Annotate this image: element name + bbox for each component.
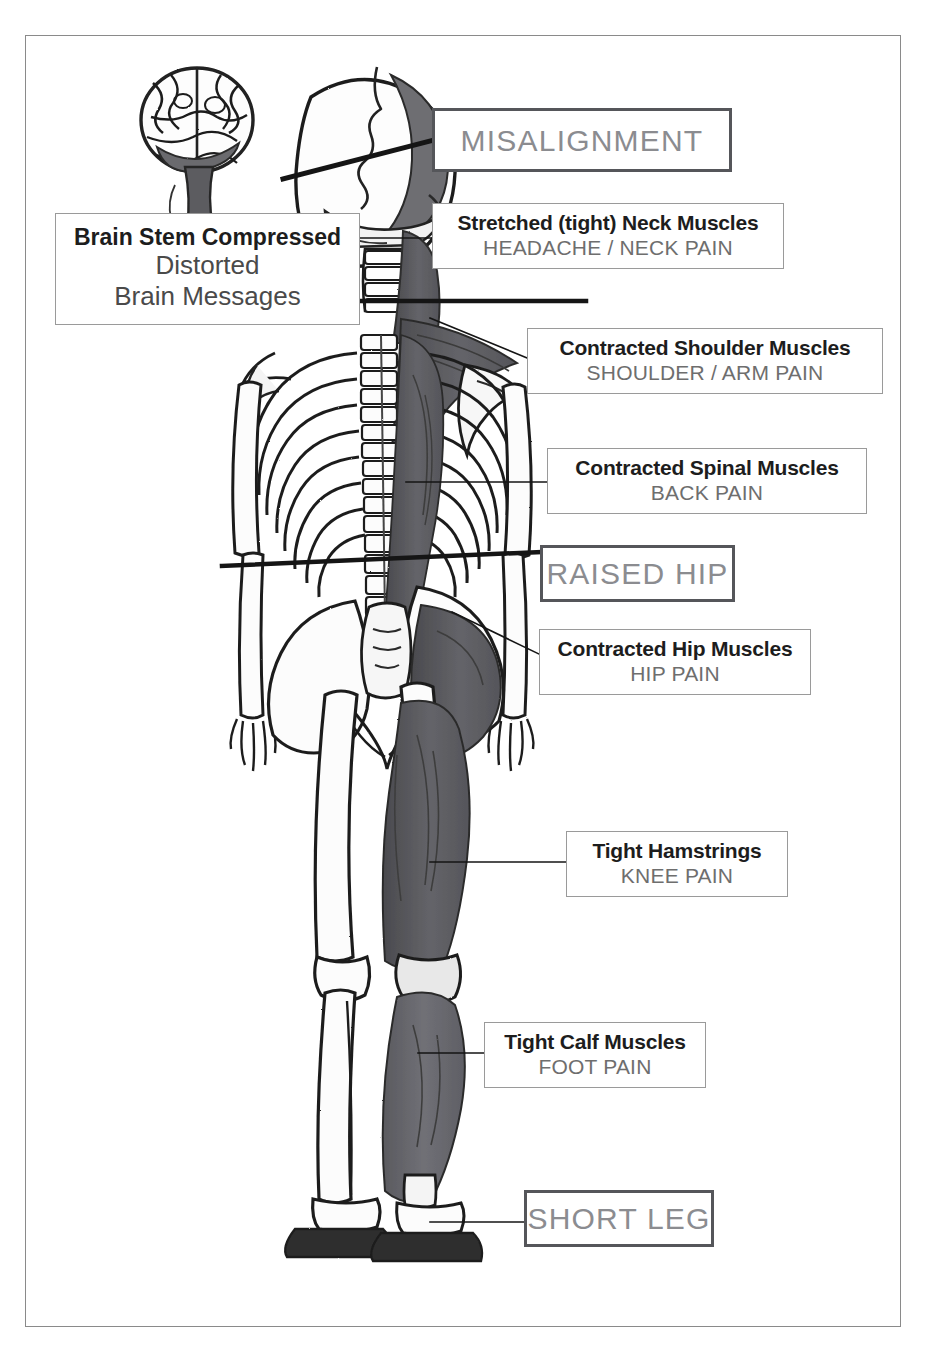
brain-illustration: [141, 68, 253, 225]
finding-box-misalignment[interactable]: MISALIGNMENT: [432, 108, 732, 172]
label-symptom-hip: HIP PAIN: [630, 662, 720, 686]
finding-label-short-leg: SHORT LEG: [527, 1202, 710, 1235]
label-title-calf: Tight Calf Muscles: [504, 1030, 686, 1054]
label-box-calf[interactable]: Tight Calf Muscles FOOT PAIN: [484, 1022, 706, 1088]
diagram-page: MISALIGNMENT Brain Stem Compressed Disto…: [0, 0, 928, 1351]
label-box-hamstring[interactable]: Tight Hamstrings KNEE PAIN: [566, 831, 788, 897]
label-symptom-hamstring: KNEE PAIN: [621, 864, 733, 888]
label-symptom-neck: HEADACHE / NECK PAIN: [483, 236, 733, 260]
left-leg: [285, 691, 392, 1257]
pelvis-illustration: [269, 587, 504, 769]
brain-stem-line-1: Brain Stem Compressed: [74, 224, 341, 250]
label-title-spinal: Contracted Spinal Muscles: [575, 456, 838, 480]
finding-label-raised-hip: RAISED HIP: [546, 557, 728, 590]
label-title-hip: Contracted Hip Muscles: [558, 637, 793, 661]
right-leg: [371, 683, 482, 1261]
finding-box-raised-hip[interactable]: RAISED HIP: [540, 545, 735, 602]
label-box-neck[interactable]: Stretched (tight) Neck Muscles HEADACHE …: [432, 203, 784, 269]
label-title-neck: Stretched (tight) Neck Muscles: [458, 211, 759, 235]
label-title-hamstring: Tight Hamstrings: [592, 839, 761, 863]
label-box-brain-stem[interactable]: Brain Stem Compressed Distorted Brain Me…: [55, 213, 360, 325]
finding-box-short-leg[interactable]: SHORT LEG: [524, 1190, 714, 1247]
finding-label-misalignment: MISALIGNMENT: [461, 124, 704, 157]
label-box-shoulder[interactable]: Contracted Shoulder Muscles SHOULDER / A…: [527, 328, 883, 394]
brain-stem-line-2: Distorted: [155, 250, 259, 281]
label-box-hip[interactable]: Contracted Hip Muscles HIP PAIN: [539, 629, 811, 695]
label-box-spinal[interactable]: Contracted Spinal Muscles BACK PAIN: [547, 448, 867, 514]
label-symptom-spinal: BACK PAIN: [651, 481, 763, 505]
label-title-shoulder: Contracted Shoulder Muscles: [560, 336, 851, 360]
label-symptom-shoulder: SHOULDER / ARM PAIN: [587, 361, 824, 385]
brain-stem-line-3: Brain Messages: [114, 281, 300, 312]
label-symptom-calf: FOOT PAIN: [538, 1055, 651, 1079]
